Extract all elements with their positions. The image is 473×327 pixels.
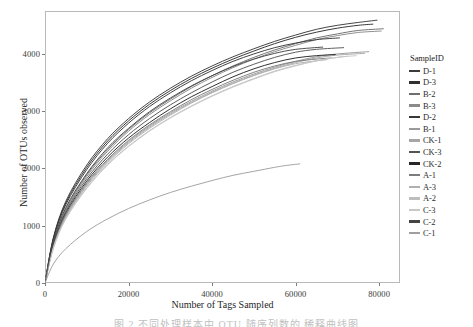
y-tick-mark: [42, 168, 45, 169]
legend-swatch-icon: [409, 104, 420, 106]
legend: SampleID D-1D-3B-2B-3D-2B-1CK-1CK-3CK-2A…: [409, 53, 471, 239]
y-tick-label: 0: [13, 278, 40, 288]
legend-label: B-1: [423, 124, 435, 134]
legend-swatch-icon: [409, 197, 420, 199]
legend-swatch-icon: [409, 151, 420, 153]
x-tick-label: 40000: [201, 289, 223, 299]
plot-area: [45, 11, 400, 283]
legend-item-a-3[interactable]: A-3: [409, 181, 471, 193]
curve-a-1: [45, 58, 331, 283]
x-tick-label: 60000: [285, 289, 307, 299]
legend-swatch-icon: [409, 81, 420, 83]
legend-label: A-3: [423, 182, 436, 192]
legend-item-d-1[interactable]: D-1: [409, 65, 471, 77]
figure-container: 01000200030004000020000400006000080000 N…: [0, 0, 473, 327]
legend-item-c-2[interactable]: C-2: [409, 216, 471, 228]
legend-label: CK-1: [423, 135, 442, 145]
x-tick-mark: [379, 283, 380, 286]
legend-item-c-1[interactable]: C-1: [409, 227, 471, 239]
x-tick-mark: [296, 283, 297, 286]
legend-item-a-2[interactable]: A-2: [409, 193, 471, 205]
legend-swatch-icon: [409, 220, 420, 222]
legend-title: SampleID: [410, 53, 471, 63]
legend-swatch-icon: [409, 174, 420, 176]
legend-label: C-2: [423, 217, 435, 227]
legend-label: B-2: [423, 89, 435, 99]
legend-label: D-3: [423, 77, 436, 87]
y-tick-mark: [42, 54, 45, 55]
legend-item-d-2[interactable]: D-2: [409, 111, 471, 123]
x-tick-label: 20000: [118, 289, 140, 299]
x-tick-mark: [212, 283, 213, 286]
legend-item-c-3[interactable]: C-3: [409, 204, 471, 216]
figure-caption: 图 2 不同处理样本中 OTU 随序列数的 稀释曲线图: [0, 316, 473, 327]
legend-item-d-3[interactable]: D-3: [409, 77, 471, 89]
curve-b-3: [45, 31, 381, 283]
curve-d-2: [45, 38, 339, 283]
y-tick-mark: [42, 111, 45, 112]
legend-swatch-icon: [409, 128, 420, 130]
legend-item-ck-1[interactable]: CK-1: [409, 135, 471, 147]
legend-label: CK-2: [423, 159, 442, 169]
legend-swatch-icon: [409, 232, 420, 234]
legend-swatch-icon: [409, 116, 420, 118]
legend-label: D-2: [423, 112, 436, 122]
legend-label: C-1: [423, 228, 435, 238]
curve-d-3: [45, 24, 373, 283]
legend-label: A-1: [423, 170, 436, 180]
legend-label: A-2: [423, 193, 436, 203]
legend-item-ck-2[interactable]: CK-2: [409, 158, 471, 170]
curve-a-3: [45, 60, 327, 283]
legend-swatch-icon: [409, 139, 420, 141]
legend-item-b-2[interactable]: B-2: [409, 88, 471, 100]
y-tick-label: 4000: [13, 49, 40, 59]
legend-rows: D-1D-3B-2B-3D-2B-1CK-1CK-3CK-2A-1A-3A-2C…: [409, 65, 471, 239]
x-tick-mark: [129, 283, 130, 286]
legend-swatch-icon: [409, 93, 420, 95]
y-tick-mark: [42, 226, 45, 227]
x-tick-mark: [45, 283, 46, 286]
legend-label: CK-3: [423, 147, 442, 157]
legend-swatch-icon: [409, 186, 420, 188]
legend-label: D-1: [423, 66, 436, 76]
rarefaction-curves: [45, 11, 400, 283]
legend-swatch-icon: [409, 162, 420, 164]
legend-item-b-1[interactable]: B-1: [409, 123, 471, 135]
legend-item-ck-3[interactable]: CK-3: [409, 146, 471, 158]
legend-label: B-3: [423, 101, 435, 111]
x-tick-label: 80000: [368, 289, 390, 299]
x-tick-label: 0: [43, 289, 47, 299]
y-axis-title: Number of OTUs observed: [18, 68, 29, 238]
legend-item-a-1[interactable]: A-1: [409, 169, 471, 181]
legend-swatch-icon: [409, 70, 420, 72]
x-axis-title: Number of Tags Sampled: [45, 299, 400, 310]
legend-label: C-3: [423, 205, 435, 215]
legend-item-b-3[interactable]: B-3: [409, 100, 471, 112]
legend-swatch-icon: [409, 209, 420, 211]
